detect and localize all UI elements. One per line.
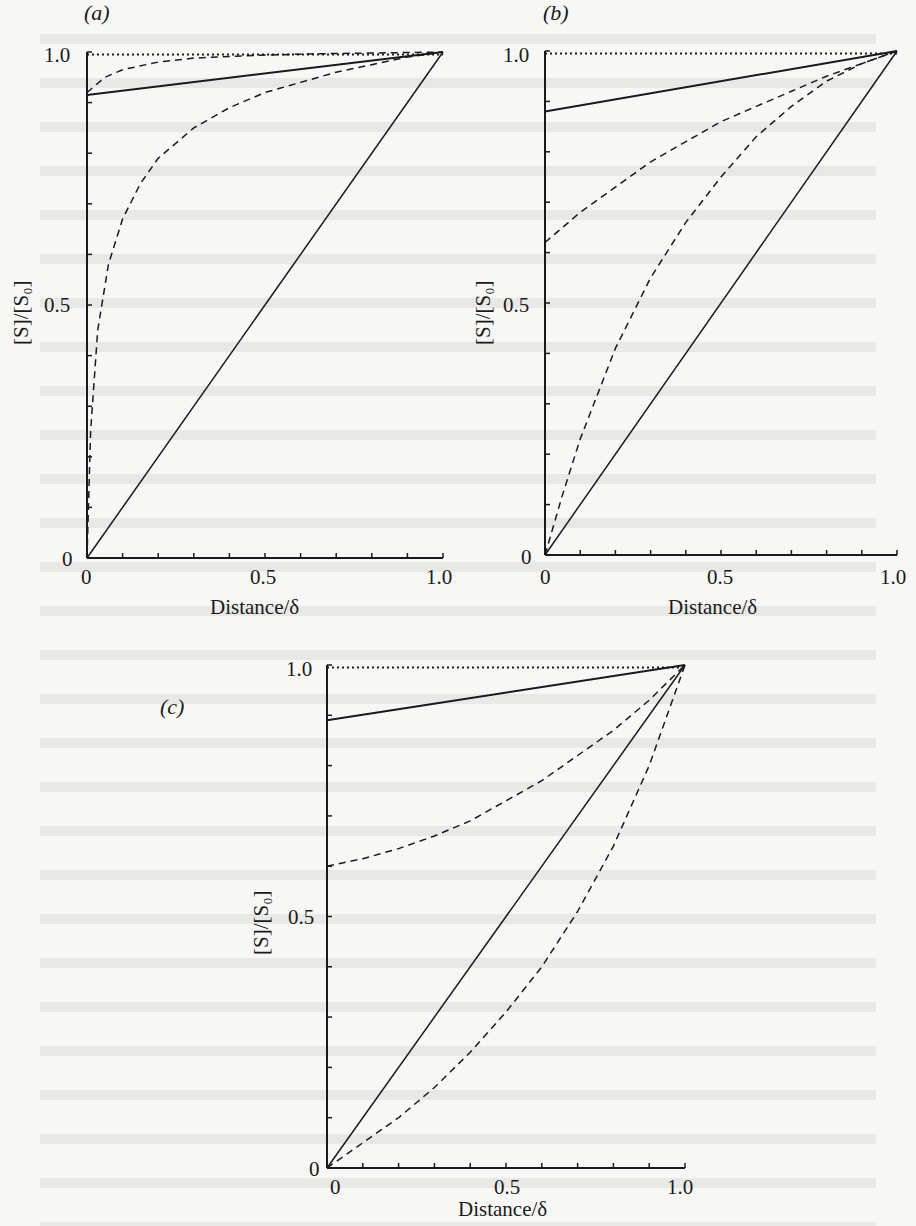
x-tick-label: 0 [81,565,92,589]
chart-panel-c: (c) 1.0 0.5 0 0 0.5 1.0 Distance/δ [S]/[… [160,657,693,1221]
y-tick-label: 0 [521,545,532,569]
plot-lines [545,51,897,555]
series-solid-diagonal [327,665,685,1168]
x-axis-title: Distance/δ [668,595,757,619]
figure-canvas: (a) 1.0 0.5 0 0 0.5 1.0 Distance/δ [S]/[… [0,0,916,1226]
x-axis-title: Distance/δ [458,1197,547,1221]
panel-label: (c) [160,694,184,719]
chart-panel-a: (a) 1.0 0.5 0 0 0.5 1.0 Distance/δ [S]/[… [9,0,452,619]
x-tick-label: 0.5 [250,565,276,589]
x-axis-title: Distance/δ [210,595,299,619]
series-dashed-upper [327,665,685,866]
x-tick-label: 1.0 [880,565,906,589]
x-tick-label: 0 [540,565,551,589]
y-axis-title: [S]/[S₀] [249,891,273,956]
series-dashed-upper [545,51,897,243]
y-tick-label: 0.5 [44,293,70,317]
x-tick-label: 1.0 [667,1175,693,1199]
series-solid-upper [545,51,897,112]
panel-label: (a) [84,0,110,25]
y-tick-label: 0.5 [503,293,529,317]
plot-lines [87,52,443,558]
y-tick-label: 0 [309,1157,320,1181]
series-solid-upper [327,665,685,720]
y-tick-label: 0 [62,547,73,571]
series-solid-diagonal [87,52,443,558]
x-tick-label: 0.5 [707,565,733,589]
y-tick-label: 1.0 [44,43,70,67]
series-solid-diagonal [545,51,897,555]
plot-lines [327,665,685,1168]
chart-panel-b: (b) 1.0 0.5 0 0 0.5 1.0 Distance/δ [S]/[… [471,0,906,619]
series-solid-upper [87,52,443,95]
x-tick-label: 0.5 [494,1175,520,1199]
x-tick-label: 1.0 [426,565,452,589]
y-axis-title: [S]/[S₀] [9,281,33,346]
y-axis-title: [S]/[S₀] [471,281,495,346]
x-tick-label: 0 [330,1175,341,1199]
panel-label: (b) [543,0,569,25]
y-tick-label: 0.5 [288,905,314,929]
y-tick-label: 1.0 [503,43,529,67]
y-tick-label: 1.0 [286,657,312,681]
